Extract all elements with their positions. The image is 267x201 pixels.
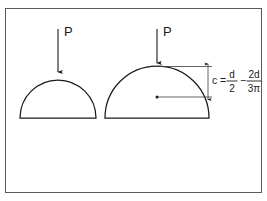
fraction2-numerator: 2d xyxy=(248,69,259,80)
formula-minus-sign: − xyxy=(240,74,246,86)
panel-background xyxy=(6,9,262,193)
right-load-label: P xyxy=(163,24,172,39)
formula-equals-sign: = xyxy=(220,74,226,86)
figure-container: P P c = d 2 − xyxy=(0,0,267,201)
fraction2-denominator: 3π xyxy=(248,83,261,94)
fraction1-denominator: 2 xyxy=(229,83,235,94)
formula-variable-c: c xyxy=(212,74,217,86)
diagram-canvas: P P c = d 2 − xyxy=(0,0,267,201)
left-load-label: P xyxy=(64,24,73,39)
fraction1-numerator: d xyxy=(229,69,235,80)
